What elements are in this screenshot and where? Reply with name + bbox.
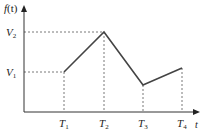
axes	[24, 10, 195, 112]
v2-label: V2	[6, 26, 17, 40]
t1-label: T1	[59, 117, 69, 131]
x-axis-arrow-icon	[193, 109, 200, 115]
data-series-line	[64, 32, 182, 85]
guide-lines	[24, 32, 182, 112]
y-axis-arrow-icon	[21, 5, 27, 12]
y-axis-label: f(t)	[4, 2, 18, 15]
t3-label: T3	[138, 117, 148, 131]
x-axis-label: t	[195, 119, 198, 130]
v1-label: V1	[6, 66, 17, 80]
t4-label: T4	[177, 117, 187, 131]
line-chart: f(t) V2 V1 T1 T2 T3 T4 t	[0, 0, 201, 134]
t2-label: T2	[99, 117, 109, 131]
